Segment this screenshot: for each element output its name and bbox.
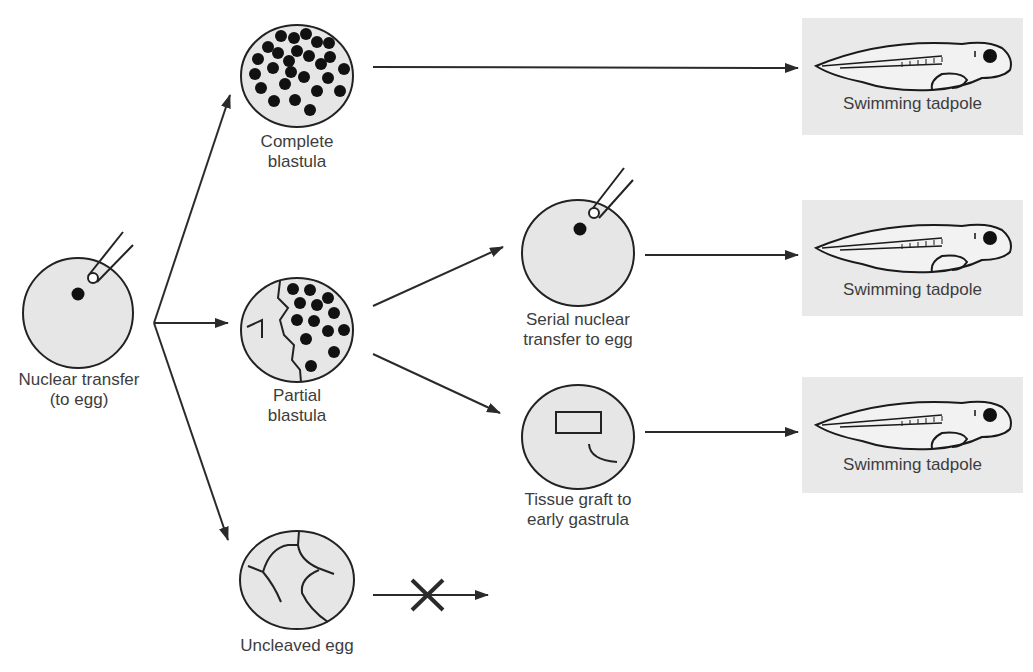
label-tissue-graft: Tissue graft to early gastrula xyxy=(524,490,631,530)
partial-blastula-cell xyxy=(241,278,353,382)
label-nuclear-transfer: Nuclear transfer (to egg) xyxy=(19,370,140,410)
start-egg xyxy=(23,232,133,368)
label-complete-blastula: Complete blastula xyxy=(261,132,334,172)
outcome-label: Swimming tadpole xyxy=(802,455,1023,475)
outcome-box-3: Swimming tadpole xyxy=(802,377,1023,493)
outcome-box-1: Swimming tadpole xyxy=(802,18,1023,135)
blocked-arrow xyxy=(373,580,488,610)
label-partial-blastula: Partial blastula xyxy=(268,386,327,426)
label-uncleaved-egg: Uncleaved egg xyxy=(240,636,353,656)
tadpole-icon xyxy=(802,208,1023,288)
label-serial-transfer: Serial nuclear transfer to egg xyxy=(523,310,633,350)
outcome-label: Swimming tadpole xyxy=(802,280,1023,300)
branch-arrows xyxy=(154,95,230,540)
outcome-label: Swimming tadpole xyxy=(802,94,1023,114)
serial-transfer-egg xyxy=(522,168,634,306)
uncleaved-egg-cell xyxy=(240,531,354,629)
outcome-box-2: Swimming tadpole xyxy=(802,200,1023,316)
tissue-graft-gastrula xyxy=(522,385,634,489)
tadpole-icon xyxy=(802,385,1023,465)
complete-blastula-cell xyxy=(241,25,353,127)
